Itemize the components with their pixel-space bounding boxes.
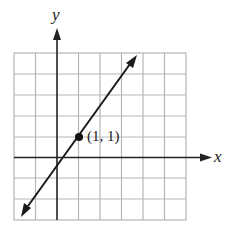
x-axis-label: x: [214, 147, 222, 167]
y-axis-label: y: [52, 5, 60, 25]
y-axis-arrow-icon: [53, 28, 61, 40]
point-marker: [75, 133, 83, 141]
graph-canvas: [0, 0, 239, 246]
x-axis-arrow-icon: [200, 154, 212, 162]
point-label: (1, 1): [87, 128, 120, 145]
